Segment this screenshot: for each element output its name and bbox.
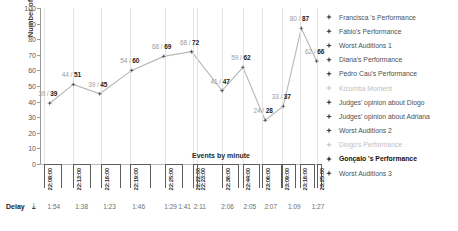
delay-value: 1:41 (178, 203, 191, 210)
legend-item-label: Fábio's Performance (339, 28, 402, 35)
delay-value: 2:11 (194, 203, 206, 210)
plot-area: 010203040506070809010039 / 3944 / 5139 /… (40, 8, 318, 164)
event-time-label: 22:13:00 (76, 168, 82, 190)
legend-item-label: Judges' opinion about Adriana (339, 113, 430, 120)
legend-marker-icon (326, 85, 332, 91)
event-time-label: 23:09:00 (284, 168, 290, 190)
y-axis-tick: 90 (28, 20, 36, 27)
data-point-label: 68 / 72 (180, 39, 199, 46)
y-axis-tick-mark (37, 24, 40, 25)
data-point-label: 41 / 47 (210, 78, 229, 85)
data-point-label: 39 / 39 (38, 90, 57, 97)
delay-value: 1:38 (75, 203, 88, 210)
data-point-label: 59 / 62 (231, 54, 250, 61)
gridline (300, 8, 301, 164)
data-point-label: 44 / 51 (62, 71, 81, 78)
delay-label: Delay (6, 203, 25, 210)
legend-item-label: Diana's Performance (339, 56, 402, 63)
y-axis-tick-mark (37, 8, 40, 9)
legend-marker-icon (326, 170, 332, 176)
data-point-label: 33 / 37 (272, 93, 291, 100)
legend-marker-icon (326, 28, 332, 34)
y-axis-tick: 40 (28, 98, 36, 105)
data-point-label: 62 / 66 (305, 48, 324, 55)
delay-value: 1:23 (103, 203, 116, 210)
data-point-label: 54 / 60 (120, 57, 139, 64)
delay-row: Delay ⤓ 1:541:381:231:461:291:412:112:06… (0, 200, 330, 218)
legend-marker-icon (326, 142, 332, 148)
legend-marker-icon (326, 113, 332, 119)
gridline (165, 8, 166, 164)
y-axis-tick-mark (37, 39, 40, 40)
legend: Francisca 's PerformanceFábio's Performa… (326, 10, 458, 180)
delay-value: 1:46 (132, 203, 145, 210)
legend-marker-icon (326, 156, 332, 162)
gridline (282, 8, 283, 164)
gridline (222, 8, 223, 164)
legend-marker-icon (326, 14, 332, 20)
legend-marker-icon (326, 99, 332, 105)
legend-item[interactable]: Diogo's Performance (326, 138, 458, 152)
y-axis-tick-mark (37, 133, 40, 134)
legend-item-label: Worst Auditions 3 (339, 170, 392, 177)
legend-marker-icon (326, 42, 332, 48)
event-time-label: 22:44:00 (245, 168, 251, 190)
events-band: Events by minute 22:08:0022:13:0022:16:0… (40, 150, 318, 190)
event-time-label: 22:16:00 (104, 168, 110, 190)
events-caption: Events by minute (192, 152, 250, 159)
legend-item-label: Pedro Cau's Performance (339, 70, 417, 77)
legend-item[interactable]: Worst Auditions 2 (326, 124, 458, 138)
legend-item[interactable]: Worst Auditions 1 (326, 38, 458, 52)
chart-screenshot: Number of Tweets 01020304050607080901003… (0, 0, 458, 231)
legend-marker-icon (326, 57, 332, 63)
y-axis-tick: 10 (28, 145, 36, 152)
legend-item-label: Worst Auditions 1 (339, 42, 392, 49)
y-axis-tick: 30 (28, 114, 36, 121)
event-time-label: 22:08:00 (47, 168, 53, 190)
gridline (193, 8, 194, 164)
data-point-label: 39 / 45 (88, 81, 107, 88)
event-time-label: 22:19:00 (133, 168, 139, 190)
legend-item-label: Gonçalo 's Performance (339, 155, 417, 162)
legend-item[interactable]: Fábio's Performance (326, 24, 458, 38)
data-point-label: 68 / 69 (152, 43, 171, 50)
legend-item-label: Judges' opinion about Diogo (339, 99, 425, 106)
y-axis-tick-mark (37, 102, 40, 103)
gridline (44, 8, 45, 164)
event-time-label: 22:25:00 (168, 168, 174, 190)
legend-marker-icon (326, 128, 332, 134)
legend-item[interactable]: Pedro Cau's Performance (326, 67, 458, 81)
y-axis-tick: 0 (32, 161, 36, 168)
delay-value: 1:29 (164, 203, 177, 210)
legend-item[interactable]: Gonçalo 's Performance (326, 152, 458, 166)
legend-item-label: Kizomba Moment (339, 85, 392, 92)
y-axis-tick: 100 (24, 5, 36, 12)
legend-item[interactable]: Judges' opinion about Adriana (326, 109, 458, 123)
gridline (317, 8, 318, 164)
legend-item[interactable]: Francisca 's Performance (326, 10, 458, 24)
gridline (130, 8, 131, 164)
y-axis-tick: 70 (28, 51, 36, 58)
legend-item[interactable]: Diana's Performance (326, 53, 458, 67)
legend-item[interactable]: Kizomba Moment (326, 81, 458, 95)
legend-item-label: Diogo's Performance (339, 141, 402, 148)
legend-item-label: Francisca 's Performance (339, 14, 416, 21)
event-time-label: 23:16:00 (302, 168, 308, 190)
y-axis-tick: 50 (28, 83, 36, 90)
delay-value: 2:06 (221, 203, 234, 210)
y-axis-tick: 20 (28, 129, 36, 136)
y-axis-tick-mark (37, 86, 40, 87)
data-point-label: 80 / 87 (290, 15, 309, 22)
y-axis-tick: 60 (28, 67, 36, 74)
legend-item[interactable]: Worst Auditions 3 (326, 166, 458, 180)
gridline (197, 8, 198, 164)
legend-item[interactable]: Judges' opinion about Diogo (326, 95, 458, 109)
event-time-label: 22:36:00 (225, 168, 231, 190)
series-line (40, 8, 318, 164)
data-point-label: 24 / 28 (254, 107, 273, 114)
y-axis-tick-mark (37, 55, 40, 56)
gridline (243, 8, 244, 164)
y-axis-tick-mark (37, 117, 40, 118)
legend-item-label: Worst Auditions 2 (339, 127, 392, 134)
legend-marker-icon (326, 71, 332, 77)
